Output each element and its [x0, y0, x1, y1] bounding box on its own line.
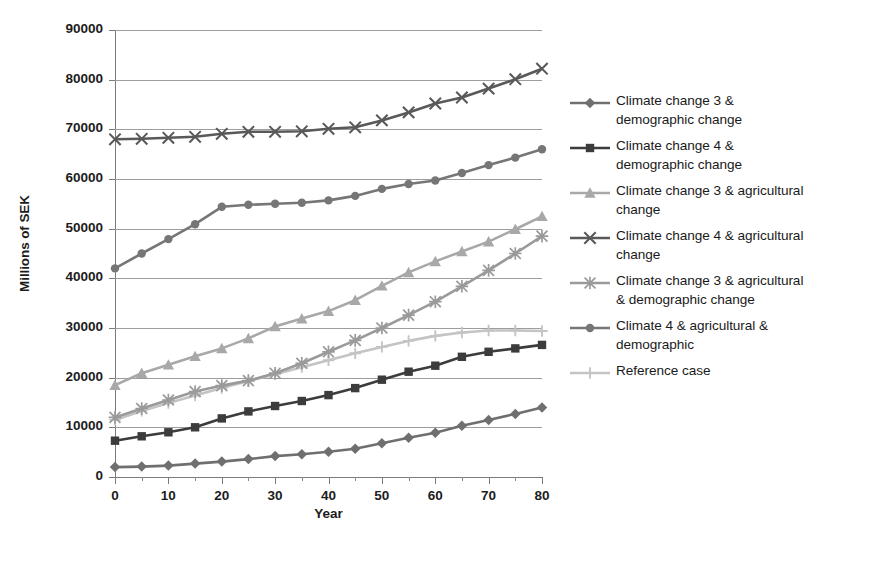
- chart-legend: Climate change 3 &demographic changeClim…: [568, 92, 868, 392]
- legend-label-line: & demographic change: [616, 291, 803, 310]
- legend-item[interactable]: Climate change 4 & agriculturalchange: [568, 227, 868, 264]
- x-tick-major: [168, 477, 169, 484]
- y-tick-label: 80000: [3, 71, 103, 86]
- legend-label: Climate change 3 &demographic change: [614, 92, 742, 129]
- legend-label: Climate 4 & agricultural &demographic: [614, 317, 768, 354]
- legend-square-icon: [568, 139, 614, 157]
- legend-cross-icon: [568, 229, 614, 247]
- y-tick-label: 30000: [3, 319, 103, 334]
- x-tick-label: 20: [202, 488, 242, 503]
- legend-label-line: Climate change 3 & agricultural: [616, 272, 803, 291]
- legend-label-line: Climate change 3 &: [616, 92, 742, 111]
- x-tick-minor: [302, 477, 303, 481]
- legend-label: Climate change 3 & agriculturalchange: [614, 182, 803, 219]
- x-tick-major: [489, 477, 490, 484]
- legend-item[interactable]: Climate 4 & agricultural &demographic: [568, 317, 868, 354]
- line-chart: Millions of SEK 010000200003000040000500…: [0, 0, 575, 564]
- x-tick-major: [115, 477, 116, 484]
- legend-label-line: change: [616, 201, 803, 220]
- legend-label-line: Climate change 3 & agricultural: [616, 182, 803, 201]
- legend-label-line: demographic change: [616, 111, 742, 130]
- y-tick-label: 70000: [3, 120, 103, 135]
- x-tick-label: 40: [309, 488, 349, 503]
- x-tick-label: 30: [255, 488, 295, 503]
- y-tick-label: 20000: [3, 369, 103, 384]
- legend-label-line: demographic change: [616, 156, 742, 175]
- y-tick-label: 0: [3, 468, 103, 483]
- legend-label-line: Climate change 4 &: [616, 137, 742, 156]
- legend-label-line: Reference case: [616, 362, 711, 381]
- x-tick-minor: [355, 477, 356, 481]
- legend-triangle-icon: [568, 184, 614, 202]
- legend-diamond-icon: [568, 94, 614, 112]
- legend-plus-icon: [568, 364, 614, 382]
- x-tick-label: 80: [522, 488, 562, 503]
- legend-label: Climate change 4 &demographic change: [614, 137, 742, 174]
- legend-label-line: Climate change 4 & agricultural: [616, 227, 803, 246]
- x-tick-minor: [248, 477, 249, 481]
- legend-label-line: change: [616, 246, 803, 265]
- legend-label: Reference case: [614, 362, 711, 381]
- legend-label-line: Climate 4 & agricultural &: [616, 317, 768, 336]
- legend-star-icon: [568, 274, 614, 292]
- x-tick-minor: [462, 477, 463, 481]
- x-tick-label: 10: [148, 488, 188, 503]
- series-circle: [111, 145, 546, 273]
- x-tick-label: 60: [415, 488, 455, 503]
- legend-item[interactable]: Climate change 3 & agriculturalchange: [568, 182, 868, 219]
- legend-label: Climate change 4 & agriculturalchange: [614, 227, 803, 264]
- x-axis-title: Year: [115, 506, 542, 521]
- y-tick-label: 10000: [3, 418, 103, 433]
- series-plot-area: [115, 30, 542, 477]
- legend-item[interactable]: Climate change 3 & agricultural& demogra…: [568, 272, 868, 309]
- x-tick-minor: [195, 477, 196, 481]
- series-cross: [109, 63, 547, 145]
- y-tick-label: 50000: [3, 220, 103, 235]
- series-plus: [109, 325, 547, 426]
- y-tick-label: 40000: [3, 269, 103, 284]
- y-tick-label: 60000: [3, 170, 103, 185]
- x-tick-major: [329, 477, 330, 484]
- x-tick-minor: [142, 477, 143, 481]
- legend-circle-icon: [568, 319, 614, 337]
- legend-label-line: demographic: [616, 336, 768, 355]
- x-tick-major: [275, 477, 276, 484]
- legend-item[interactable]: Climate change 3 &demographic change: [568, 92, 868, 129]
- x-tick-major: [222, 477, 223, 484]
- x-tick-major: [435, 477, 436, 484]
- series-diamond: [110, 402, 548, 472]
- x-tick-major: [542, 477, 543, 484]
- x-tick-minor: [409, 477, 410, 481]
- legend-label: Climate change 3 & agricultural& demogra…: [614, 272, 803, 309]
- legend-item[interactable]: Climate change 4 &demographic change: [568, 137, 868, 174]
- x-tick-minor: [515, 477, 516, 481]
- chart-page: Millions of SEK 010000200003000040000500…: [0, 0, 871, 564]
- x-tick-label: 70: [469, 488, 509, 503]
- x-tick-major: [382, 477, 383, 484]
- legend-item[interactable]: Reference case: [568, 362, 868, 384]
- x-tick-label: 50: [362, 488, 402, 503]
- y-tick-label: 90000: [3, 21, 103, 36]
- x-tick-label: 0: [95, 488, 135, 503]
